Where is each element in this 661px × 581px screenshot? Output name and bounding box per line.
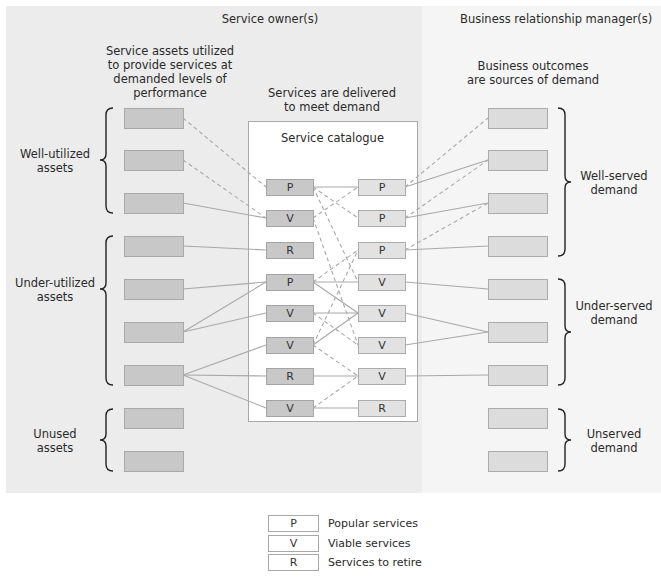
catalogue-service-left: R: [266, 368, 314, 385]
legend-key-viable: V: [268, 535, 319, 552]
demand-box: [488, 236, 548, 257]
catalogue-service-right: P: [358, 210, 406, 227]
catalogue-service-left: V: [266, 305, 314, 322]
unserved-demand-label: Unserved demand: [574, 427, 654, 455]
demand-box: [488, 193, 548, 214]
legend-key-popular: P: [268, 515, 319, 532]
catalogue-service-left: V: [266, 400, 314, 417]
demand-box: [488, 408, 548, 429]
under-served-demand-label: Under-served demand: [574, 299, 654, 327]
catalogue-service-right: V: [358, 305, 406, 322]
catalogue-service-right: P: [358, 179, 406, 196]
brm-header: Business relationship manager(s): [460, 12, 650, 26]
catalogue-service-left: P: [266, 179, 314, 196]
well-served-demand-label: Well-served demand: [574, 169, 654, 197]
outcomes-subheader: Business outcomes are sources of demand: [458, 59, 608, 87]
asset-box: [124, 365, 184, 386]
catalogue-service-left: P: [266, 274, 314, 291]
catalogue-service-right: V: [358, 368, 406, 385]
demand-box: [488, 150, 548, 171]
demand-box: [488, 108, 548, 129]
asset-box: [124, 236, 184, 257]
unused-assets-label: Unused assets: [10, 427, 100, 455]
demand-box: [488, 451, 548, 472]
asset-box: [124, 279, 184, 300]
catalogue-service-left: R: [266, 242, 314, 259]
assets-subheader: Service assets utilized to provide servi…: [95, 44, 245, 100]
catalogue-service-right: P: [358, 242, 406, 259]
asset-box: [124, 193, 184, 214]
catalogue-service-left: V: [266, 337, 314, 354]
demand-box: [488, 279, 548, 300]
under-utilized-assets-label: Under-utilized assets: [10, 276, 100, 304]
well-utilized-assets-label: Well-utilized assets: [10, 147, 100, 175]
catalogue-service-right: R: [358, 400, 406, 417]
legend-label-viable: Viable services: [328, 536, 411, 551]
catalogue-service-right: V: [358, 337, 406, 354]
service-owner-header: Service owner(s): [215, 12, 325, 26]
asset-box: [124, 408, 184, 429]
catalogue-title: Service catalogue: [280, 131, 385, 145]
legend-label-retire: Services to retire: [328, 555, 422, 570]
demand-box: [488, 365, 548, 386]
services-subheader: Services are delivered to meet demand: [262, 86, 402, 114]
asset-box: [124, 451, 184, 472]
asset-box: [124, 108, 184, 129]
legend-label-popular: Popular services: [328, 516, 418, 531]
demand-box: [488, 322, 548, 343]
asset-box: [124, 150, 184, 171]
asset-box: [124, 322, 184, 343]
catalogue-service-right: V: [358, 274, 406, 291]
catalogue-service-left: V: [266, 210, 314, 227]
legend-key-retire: R: [268, 554, 319, 571]
